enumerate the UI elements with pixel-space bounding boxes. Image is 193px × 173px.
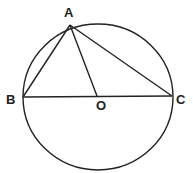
segment-ao (70, 25, 97, 96)
segment-ac (70, 25, 172, 96)
diameter-bc (23, 96, 172, 97)
label-b: B (6, 92, 15, 107)
geometry-diagram: A B O C (0, 0, 193, 173)
label-o: O (96, 98, 106, 113)
segment-ab (23, 25, 70, 97)
label-c: C (176, 92, 186, 107)
label-a: A (64, 5, 74, 20)
